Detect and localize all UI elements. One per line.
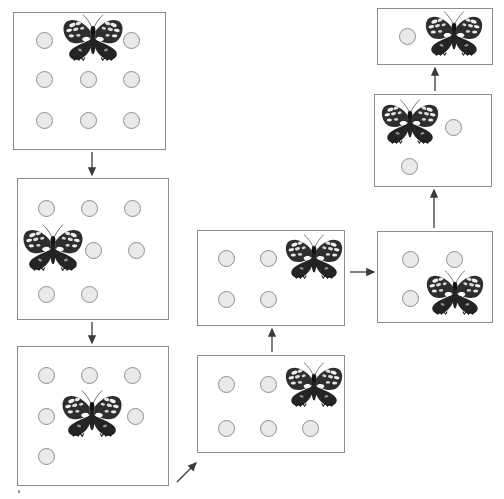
circle-token bbox=[38, 367, 55, 384]
arrow-panel5-to-panel6 bbox=[340, 262, 384, 282]
circle-token bbox=[80, 112, 97, 129]
butterfly-icon bbox=[60, 12, 126, 64]
butterfly-icon bbox=[379, 97, 441, 147]
circle-token bbox=[218, 420, 235, 437]
butterfly-icon bbox=[423, 9, 485, 59]
circle-token bbox=[123, 112, 140, 129]
circle-token bbox=[36, 112, 53, 129]
circle-token bbox=[401, 158, 418, 175]
circle-token bbox=[38, 408, 55, 425]
circle-token bbox=[127, 408, 144, 425]
arrow-panel4-to-panel5 bbox=[262, 319, 282, 362]
circle-token bbox=[260, 250, 277, 267]
circle-token bbox=[399, 28, 416, 45]
circle-token bbox=[123, 71, 140, 88]
circle-token bbox=[260, 376, 277, 393]
butterfly-icon bbox=[283, 232, 345, 282]
circle-token bbox=[36, 71, 53, 88]
arrow-panel7-to-panel8 bbox=[425, 58, 445, 101]
circle-token bbox=[81, 286, 98, 303]
circle-token bbox=[446, 251, 463, 268]
circle-token bbox=[38, 286, 55, 303]
arrow-panel2-to-panel3 bbox=[82, 312, 102, 353]
arrow-panel6-to-panel7 bbox=[424, 180, 444, 238]
circle-token bbox=[402, 290, 419, 307]
arrow-panel1-to-panel2 bbox=[82, 142, 102, 185]
circle-token bbox=[124, 367, 141, 384]
diagram-canvas bbox=[0, 0, 504, 499]
arrow-panel3-to-panel4 bbox=[167, 453, 206, 492]
butterfly-icon bbox=[283, 360, 345, 410]
circle-token bbox=[260, 291, 277, 308]
circle-token bbox=[124, 200, 141, 217]
butterfly-icon bbox=[58, 388, 126, 440]
circle-token bbox=[38, 200, 55, 217]
circle-token bbox=[302, 420, 319, 437]
circle-token bbox=[81, 367, 98, 384]
circle-token bbox=[218, 250, 235, 267]
circle-token bbox=[38, 448, 55, 465]
circle-token bbox=[260, 420, 277, 437]
circle-token bbox=[402, 251, 419, 268]
circle-token bbox=[80, 71, 97, 88]
circle-token bbox=[218, 376, 235, 393]
circle-token bbox=[85, 242, 102, 259]
circle-token bbox=[36, 32, 53, 49]
circle-token bbox=[218, 291, 235, 308]
butterfly-icon bbox=[19, 222, 87, 274]
circle-token bbox=[81, 200, 98, 217]
circle-token bbox=[445, 119, 462, 136]
circle-token bbox=[128, 242, 145, 259]
butterfly-icon bbox=[424, 268, 486, 318]
page-speck-bottom-left bbox=[18, 490, 20, 493]
